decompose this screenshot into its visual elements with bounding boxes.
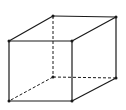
visible-edge [72,78,116,101]
vertices [8,15,118,103]
hidden-edge [9,77,53,101]
vertex-front-bottom-left [8,100,11,103]
vertex-back-top-right [115,16,118,19]
vertex-front-bottom-right [71,100,74,103]
hidden-edge [53,77,116,78]
visible-edge [53,16,116,17]
vertex-front-top-left [8,40,11,43]
hidden-edges [9,16,116,101]
visible-edge [9,16,53,41]
visible-edges [9,16,116,101]
vertex-back-bottom-left [52,76,55,79]
vertex-back-bottom-right [115,77,118,80]
vertex-front-top-right [71,40,74,43]
visible-edge [72,17,116,41]
cube-diagram [0,0,126,110]
vertex-back-top-left [52,15,55,18]
